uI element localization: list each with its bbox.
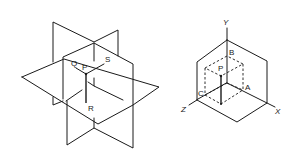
label-z: Z [180, 105, 187, 114]
inner-intersection-mark [94, 78, 123, 100]
x-axis [267, 103, 275, 107]
label-a: A [245, 83, 251, 92]
horizontal-intersection-line [66, 90, 82, 101]
label-c: C [198, 89, 204, 98]
point-p-dot [220, 75, 222, 77]
point-p-dot [85, 73, 87, 75]
diagram-canvas: Q P S R Y B P A C Z X [0, 0, 298, 157]
xz-plane [197, 83, 267, 122]
label-y: Y [223, 18, 229, 27]
axis-ps [86, 64, 104, 74]
label-x: X [274, 107, 281, 116]
label-r: R [88, 104, 94, 113]
label-p-right: P [218, 64, 223, 73]
inner-intersection-mark-2 [88, 82, 94, 86]
coordinate-axes-figure: Y B P A C Z X [180, 18, 281, 122]
point-p-foot [220, 103, 222, 105]
horizontal-plane [22, 59, 159, 124]
box-top [205, 56, 243, 76]
label-b: B [229, 48, 234, 57]
label-q: Q [71, 59, 77, 68]
label-s: S [105, 55, 110, 64]
label-p: P [82, 63, 87, 72]
z-axis [189, 100, 197, 105]
intersecting-planes-figure: Q P S R [22, 22, 159, 148]
